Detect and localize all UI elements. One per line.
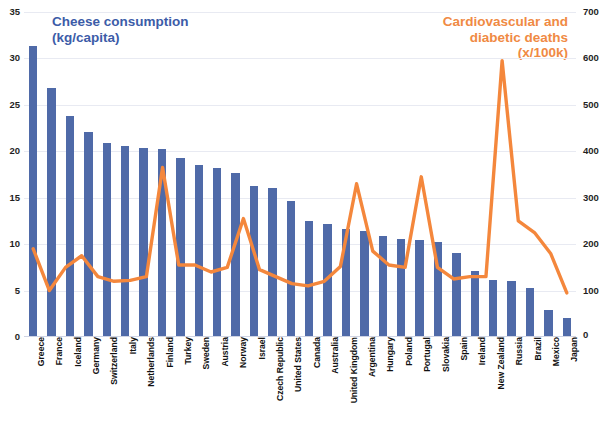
x-axis-tick-label: Slovakia <box>442 337 451 372</box>
left-axis-tick: 20 <box>9 146 20 156</box>
x-axis-tick-label: Ireland <box>478 337 487 365</box>
x-axis-tick-label: Austria <box>221 337 230 367</box>
x-axis-tick-label: Greece <box>37 337 46 366</box>
x-axis-tick-label: Brazil <box>534 337 543 360</box>
x-axis-tick-label: Turkey <box>184 337 193 365</box>
x-axis-tick-label: Japan <box>570 337 579 362</box>
left-y-axis: 05101520253035 <box>0 0 20 427</box>
chart-canvas: 05101520253035 100200300400500600700 0 C… <box>0 0 607 427</box>
x-axis-tick-label: Argentina <box>368 337 377 377</box>
plot-area <box>24 12 576 337</box>
x-axis-labels: GreeceFranceIcelandGermanySwitzerlandIta… <box>24 337 576 427</box>
x-axis-tick-label: New Zealand <box>497 337 506 390</box>
x-axis-tick-label: Netherlands <box>147 337 156 387</box>
left-axis-tick: 5 <box>15 286 20 296</box>
left-axis-tick: 10 <box>9 239 20 249</box>
x-axis-tick-label: Canada <box>313 337 322 368</box>
x-axis-tick-label: France <box>55 337 64 365</box>
left-axis-tick: 0 <box>15 332 20 342</box>
x-axis-tick-label: Iceland <box>74 337 83 367</box>
x-axis-tick-label: Norway <box>239 337 248 368</box>
x-axis-tick-label: United States <box>294 337 303 392</box>
left-axis-tick: 30 <box>9 53 20 63</box>
x-axis-tick-label: Italy <box>129 337 138 354</box>
cvd-line-path <box>33 61 567 293</box>
right-axis-tick: 300 <box>583 193 599 203</box>
x-axis-tick-label: Hungary <box>386 337 395 372</box>
right-axis-tick: 100 <box>583 286 599 296</box>
x-axis-tick-label: Spain <box>460 337 469 360</box>
x-axis-tick-label: Finland <box>166 337 175 368</box>
right-axis-tick: 600 <box>583 53 599 63</box>
right-axis-zero-label: 0 <box>583 329 588 340</box>
right-axis-tick: 700 <box>583 7 599 17</box>
x-axis-tick-label: Mexico <box>552 337 561 366</box>
left-axis-tick: 35 <box>9 7 20 17</box>
x-axis-tick-label: Germany <box>92 337 101 374</box>
x-axis-tick-label: Czech Republic <box>276 337 285 401</box>
right-axis-tick: 500 <box>583 100 599 110</box>
x-axis-tick-label: Portugal <box>423 337 432 372</box>
x-axis-tick-label: Sweden <box>202 337 211 369</box>
x-axis-tick-label: Switzerland <box>110 337 119 385</box>
x-axis-tick-label: Russia <box>515 337 524 365</box>
line-series <box>24 12 576 337</box>
x-axis-tick-label: Israel <box>258 337 267 359</box>
right-axis-tick: 200 <box>583 239 599 249</box>
x-axis-tick-label: Poland <box>405 337 414 366</box>
x-axis-tick-label: Australia <box>331 337 340 374</box>
right-axis-tick: 400 <box>583 146 599 156</box>
left-axis-tick: 25 <box>9 100 20 110</box>
left-axis-tick: 15 <box>9 193 20 203</box>
x-axis-tick-label: United Kingdom <box>350 337 359 403</box>
right-y-axis: 100200300400500600700 <box>578 0 607 427</box>
